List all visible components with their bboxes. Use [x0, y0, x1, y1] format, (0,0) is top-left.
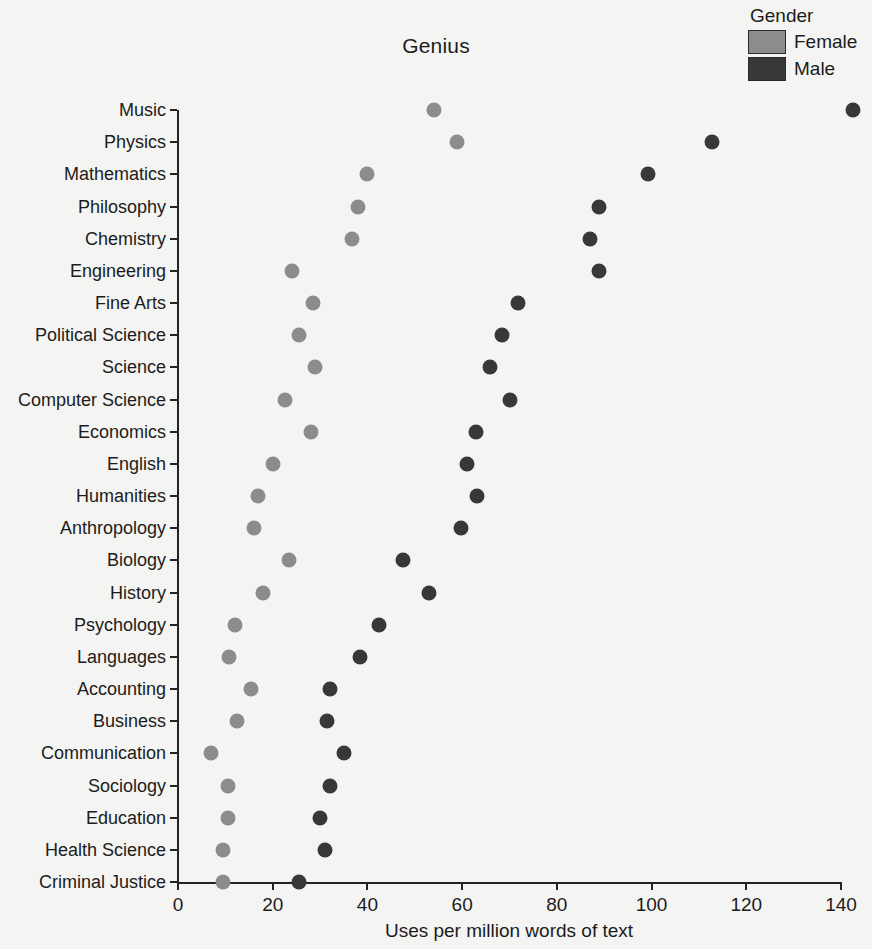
data-point-female[interactable]	[308, 360, 323, 375]
x-tick	[651, 882, 653, 890]
data-point-male[interactable]	[511, 296, 526, 311]
data-point-male[interactable]	[503, 392, 518, 407]
data-point-female[interactable]	[220, 810, 235, 825]
data-point-female[interactable]	[350, 199, 365, 214]
x-tick-label: 120	[730, 894, 762, 916]
data-point-male[interactable]	[372, 617, 387, 632]
data-point-male[interactable]	[583, 231, 598, 246]
x-tick-label: 60	[452, 894, 473, 916]
y-axis-label-sociology: Sociology	[88, 777, 166, 795]
data-point-male[interactable]	[322, 778, 337, 793]
data-point-female[interactable]	[220, 778, 235, 793]
x-tick-label: 0	[173, 894, 184, 916]
data-point-male[interactable]	[353, 649, 368, 664]
data-point-male[interactable]	[459, 456, 474, 471]
data-point-male[interactable]	[322, 682, 337, 697]
y-axis-label-mathematics: Mathematics	[64, 165, 166, 183]
data-point-female[interactable]	[284, 263, 299, 278]
data-point-female[interactable]	[222, 649, 237, 664]
x-tick	[461, 882, 463, 890]
data-point-female[interactable]	[230, 714, 245, 729]
data-point-male[interactable]	[291, 875, 306, 890]
y-axis-label-science: Science	[102, 358, 166, 376]
data-point-male[interactable]	[469, 424, 484, 439]
y-tick	[170, 752, 177, 754]
y-tick	[170, 881, 177, 883]
data-point-female[interactable]	[305, 296, 320, 311]
y-tick	[170, 206, 177, 208]
data-point-female[interactable]	[450, 135, 465, 150]
y-axis-label-education: Education	[86, 809, 166, 827]
data-point-male[interactable]	[705, 135, 720, 150]
y-tick	[170, 656, 177, 658]
data-point-female[interactable]	[204, 746, 219, 761]
y-tick	[170, 785, 177, 787]
plot-area: MusicPhysicsMathematicsPhilosophyChemist…	[0, 0, 872, 949]
data-point-male[interactable]	[395, 553, 410, 568]
data-point-male[interactable]	[495, 328, 510, 343]
data-point-male[interactable]	[320, 714, 335, 729]
y-tick	[170, 817, 177, 819]
data-point-male[interactable]	[336, 746, 351, 761]
y-axis-label-history: History	[110, 584, 166, 602]
y-tick	[170, 688, 177, 690]
data-point-male[interactable]	[482, 360, 497, 375]
y-axis-label-computer-science: Computer Science	[18, 391, 166, 409]
data-point-male[interactable]	[454, 521, 469, 536]
x-tick-label: 100	[636, 894, 668, 916]
data-point-female[interactable]	[250, 489, 265, 504]
data-point-female[interactable]	[426, 103, 441, 118]
y-axis-label-criminal-justice: Criminal Justice	[39, 873, 166, 891]
y-tick	[170, 141, 177, 143]
data-point-female[interactable]	[277, 392, 292, 407]
y-axis-label-languages: Languages	[77, 648, 166, 666]
y-tick	[170, 109, 177, 111]
y-tick	[170, 270, 177, 272]
data-point-female[interactable]	[244, 682, 259, 697]
y-axis-label-chemistry: Chemistry	[85, 230, 166, 248]
data-point-female[interactable]	[215, 875, 230, 890]
y-tick	[170, 559, 177, 561]
data-point-female[interactable]	[256, 585, 271, 600]
y-tick	[170, 302, 177, 304]
y-axis-label-philosophy: Philosophy	[78, 198, 166, 216]
y-axis-label-biology: Biology	[107, 551, 166, 569]
y-tick	[170, 592, 177, 594]
data-point-female[interactable]	[215, 842, 230, 857]
x-axis-title: Uses per million words of text	[177, 920, 841, 942]
x-tick	[840, 882, 842, 890]
y-axis-label-fine-arts: Fine Arts	[95, 294, 166, 312]
x-tick-label: 20	[262, 894, 283, 916]
data-point-male[interactable]	[421, 585, 436, 600]
y-tick	[170, 624, 177, 626]
data-point-male[interactable]	[470, 489, 485, 504]
data-point-male[interactable]	[313, 810, 328, 825]
x-tick-label: 80	[546, 894, 567, 916]
data-point-female[interactable]	[282, 553, 297, 568]
data-point-male[interactable]	[591, 263, 606, 278]
data-point-female[interactable]	[227, 617, 242, 632]
data-point-female[interactable]	[360, 167, 375, 182]
y-tick	[170, 334, 177, 336]
x-tick-label: 140	[825, 894, 857, 916]
x-tick	[745, 882, 747, 890]
data-point-female[interactable]	[303, 424, 318, 439]
y-axis-label-engineering: Engineering	[70, 262, 166, 280]
data-point-female[interactable]	[265, 456, 280, 471]
x-tick	[272, 882, 274, 890]
data-point-female[interactable]	[291, 328, 306, 343]
data-point-female[interactable]	[246, 521, 261, 536]
y-axis-label-physics: Physics	[104, 133, 166, 151]
x-tick	[556, 882, 558, 890]
y-tick	[170, 463, 177, 465]
data-point-female[interactable]	[345, 231, 360, 246]
data-point-male[interactable]	[317, 842, 332, 857]
x-tick-label: 40	[357, 894, 378, 916]
y-axis-label-political-science: Political Science	[35, 326, 166, 344]
data-point-male[interactable]	[845, 103, 860, 118]
y-axis-label-business: Business	[93, 712, 166, 730]
y-axis-label-economics: Economics	[78, 423, 166, 441]
data-point-male[interactable]	[592, 199, 607, 214]
data-point-male[interactable]	[640, 167, 655, 182]
y-axis-label-anthropology: Anthropology	[60, 519, 166, 537]
